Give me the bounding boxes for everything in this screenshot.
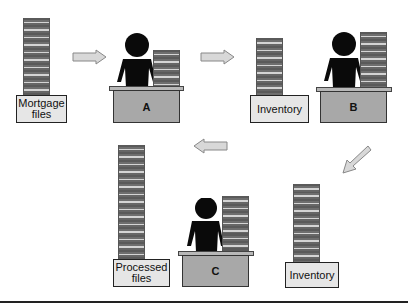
desk-a-label: A xyxy=(143,101,151,113)
mortgage-label-line2: files xyxy=(32,109,52,120)
processed-files-stack xyxy=(118,145,145,260)
arrow-left-icon xyxy=(192,138,228,154)
inventory-bottom-text: Inventory xyxy=(289,270,334,281)
bottom-divider xyxy=(0,301,408,303)
desk-c-label: C xyxy=(212,265,220,277)
worker-b-stack xyxy=(360,32,387,88)
inventory-top-text: Inventory xyxy=(257,104,302,115)
worker-c-stack xyxy=(222,196,249,252)
mortgage-files-stack xyxy=(23,18,50,95)
mortgage-files-label: Mortgage files xyxy=(16,95,67,123)
worker-a-stack xyxy=(153,50,180,87)
desk-b: B xyxy=(320,91,387,123)
arrow-right-icon xyxy=(72,49,108,65)
inventory-top-stack xyxy=(256,38,283,95)
arrow-down-left-icon xyxy=(340,144,372,176)
desk-c: C xyxy=(182,255,249,287)
arrow-right-icon xyxy=(200,49,236,65)
processed-label-line2: files xyxy=(132,273,152,284)
inventory-top-label: Inventory xyxy=(250,95,309,123)
inventory-bottom-label: Inventory xyxy=(285,262,339,288)
desk-b-label: B xyxy=(350,101,358,113)
processed-files-label: Processed files xyxy=(113,259,170,287)
inventory-bottom-stack xyxy=(293,184,320,262)
desk-a: A xyxy=(113,90,180,123)
